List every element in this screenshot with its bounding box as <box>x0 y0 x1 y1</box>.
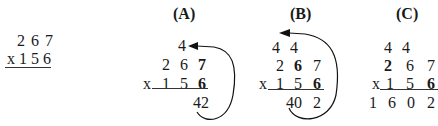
panel-b-arrow-icon <box>289 33 338 119</box>
carry-arrows <box>0 0 438 126</box>
panel-a-arrow-icon <box>197 46 235 119</box>
